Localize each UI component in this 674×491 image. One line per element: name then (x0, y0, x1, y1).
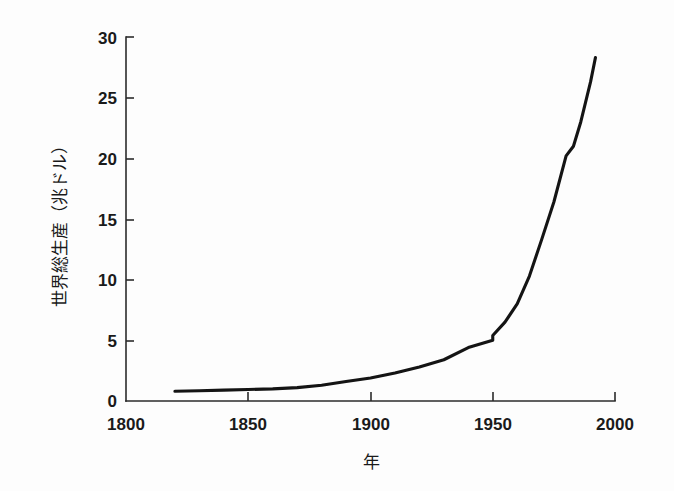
y-tick-label-15: 15 (98, 211, 117, 230)
y-tick-label-5: 5 (108, 332, 117, 351)
y-tick-marks (126, 98, 134, 341)
y-tick-label-0: 0 (108, 392, 117, 411)
x-tick-label-1800: 1800 (107, 415, 145, 434)
x-tick-label-2000: 2000 (596, 415, 634, 434)
x-axis-title: 年 (363, 453, 380, 472)
chart-figure: 0 5 10 15 20 25 30 1800 1850 1900 1950 2… (0, 0, 674, 491)
x-tick-label-1850: 1850 (229, 415, 267, 434)
y-tick-label-30: 30 (98, 29, 117, 48)
y-tick-label-25: 25 (98, 89, 117, 108)
series-line-world-gross-product (175, 58, 596, 392)
y-tick-label-10: 10 (98, 271, 117, 290)
x-tick-marks (248, 392, 493, 401)
x-tick-label-1950: 1950 (474, 415, 512, 434)
y-axis-title: 世界総生産（兆ドル） (51, 137, 70, 307)
line-chart: 0 5 10 15 20 25 30 1800 1850 1900 1950 2… (0, 0, 674, 491)
y-tick-label-20: 20 (98, 150, 117, 169)
x-tick-label-1900: 1900 (352, 415, 390, 434)
